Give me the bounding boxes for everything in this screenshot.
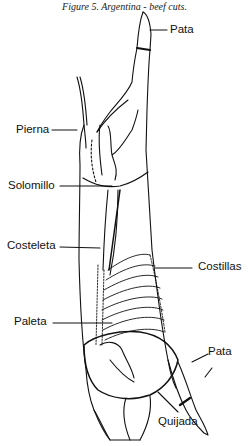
- carcass-diagram: [0, 0, 249, 446]
- brisket-outline: [124, 398, 130, 440]
- label-costeleta: Costeleta: [7, 240, 56, 252]
- carcass-left-outline: [79, 125, 110, 440]
- shoulder-outline: [84, 332, 178, 399]
- label-pata-bottom: Pata: [208, 346, 232, 358]
- label-pata-top: Pata: [170, 24, 194, 36]
- label-paleta: Paleta: [14, 316, 47, 328]
- label-solomillo: Solomillo: [8, 180, 55, 192]
- tenderloin-line: [109, 190, 120, 270]
- label-costillas: Costillas: [198, 261, 241, 273]
- hind-shank-outline: [143, 12, 176, 388]
- label-pierna: Pierna: [16, 124, 49, 136]
- leader-costeleta: [60, 247, 100, 248]
- label-quijada: Quijada: [158, 416, 198, 428]
- tail-outline: [77, 77, 86, 148]
- leader-quijada: [158, 392, 178, 412]
